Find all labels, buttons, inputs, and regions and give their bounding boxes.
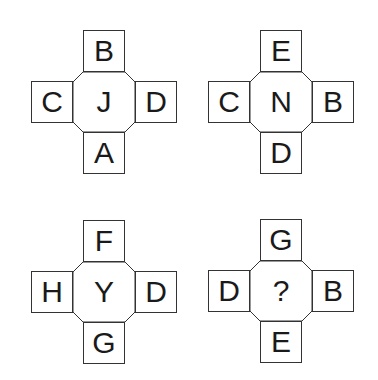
center-letter: Y bbox=[73, 262, 135, 322]
right-letter-box: B bbox=[312, 270, 354, 312]
center-letter: J bbox=[73, 72, 135, 132]
top-letter-box: E bbox=[260, 30, 302, 72]
figure-3: Y F H D G bbox=[31, 220, 191, 380]
left-letter-box: H bbox=[31, 271, 73, 313]
top-letter-box: B bbox=[83, 30, 125, 72]
right-letter-box: D bbox=[135, 81, 177, 123]
top-letter-box: G bbox=[260, 219, 302, 261]
left-letter-box: D bbox=[208, 270, 250, 312]
bottom-letter-box: E bbox=[260, 321, 302, 363]
figure-2: N E C B D bbox=[208, 30, 368, 190]
bottom-letter-box: A bbox=[83, 132, 125, 174]
figure-4: ? G D B E bbox=[208, 219, 368, 379]
left-letter-box: C bbox=[31, 81, 73, 123]
unknown-center-letter: ? bbox=[250, 261, 312, 321]
right-letter-box: B bbox=[312, 81, 354, 123]
top-letter-box: F bbox=[83, 220, 125, 262]
bottom-letter-box: G bbox=[83, 322, 125, 364]
right-letter-box: D bbox=[135, 271, 177, 313]
center-letter: N bbox=[250, 72, 312, 132]
left-letter-box: C bbox=[208, 81, 250, 123]
bottom-letter-box: D bbox=[260, 132, 302, 174]
figure-1: J B C D A bbox=[31, 30, 191, 190]
